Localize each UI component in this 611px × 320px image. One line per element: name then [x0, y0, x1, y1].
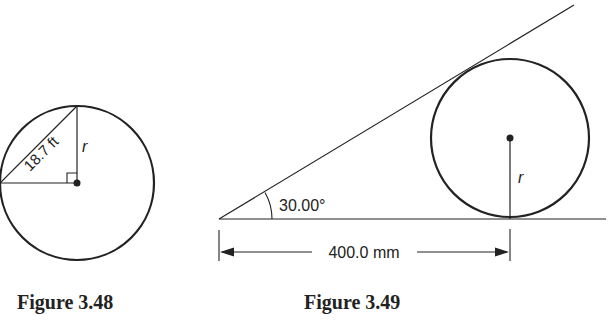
- figure-3-49-diagram: 30.00° r 400.0 mm: [219, 5, 606, 261]
- arrowhead-left: [220, 248, 234, 257]
- center-dot: [74, 180, 81, 187]
- figure-3-49-caption: Figure 3.49: [304, 291, 400, 314]
- figure-3-48-diagram: 18.7 ft r: [0, 106, 154, 260]
- angle-arc: [265, 193, 272, 220]
- figure-3-48-caption: Figure 3.48: [17, 291, 113, 314]
- distance-label: 400.0 mm: [328, 244, 399, 261]
- angle-label: 30.00°: [279, 197, 325, 214]
- figures-canvas: 18.7 ft r 30.00° r 400.0 mm: [0, 0, 611, 320]
- radius-label: r: [82, 138, 88, 155]
- radius-label: r: [518, 169, 524, 186]
- incline-line: [219, 5, 574, 219]
- arrowhead-right: [495, 248, 509, 257]
- chord-label: 18.7 ft: [20, 132, 62, 174]
